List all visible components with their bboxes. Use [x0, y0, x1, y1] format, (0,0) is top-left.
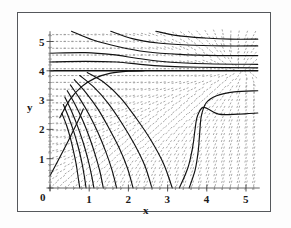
y-tick-label-4: 4 [39, 66, 45, 77]
y-axis-label: y [27, 102, 33, 113]
x-tick-label-4: 4 [204, 194, 210, 205]
x-tick-label-1: 1 [86, 194, 92, 205]
x-tick-label-0: 0 [40, 192, 46, 203]
vector-field-layer [48, 29, 259, 190]
x-tick-label-2: 2 [125, 194, 131, 205]
x-tick-label-3: 3 [165, 194, 171, 205]
y-tick-label-3: 3 [39, 95, 45, 106]
y-tick-label-2: 2 [39, 124, 45, 135]
figure-root: 0 1 2 3 4 5 1 2 3 4 5 x y [0, 0, 291, 228]
y-tick-label-1: 1 [39, 154, 45, 165]
x-tick-label-5: 5 [243, 194, 249, 205]
x-axis-label: x [143, 205, 149, 216]
y-tick-label-5: 5 [39, 37, 45, 48]
